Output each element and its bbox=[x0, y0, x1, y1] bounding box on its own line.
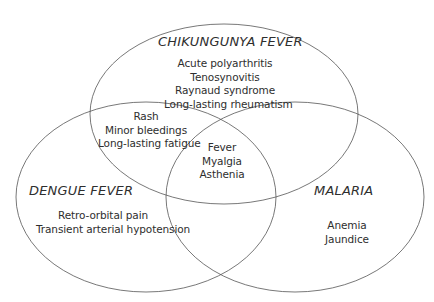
malaria-items: Anemia Jaundice bbox=[322, 219, 372, 246]
all-three-items: Fever Myalgia Asthenia bbox=[196, 141, 248, 182]
overlap-item: Long-lasting fatigue bbox=[98, 137, 194, 151]
chikungunya-dengue-items: Rash Minor bleedings Long-lasting fatigu… bbox=[98, 110, 194, 151]
overlap-item: Asthenia bbox=[196, 168, 248, 182]
overlap-item: Rash bbox=[98, 110, 194, 124]
chikungunya-title: CHIKUNGUNYA FEVER bbox=[158, 34, 303, 49]
chikungunya-item: Long-lasting rheumatism bbox=[164, 98, 286, 112]
malaria-circle bbox=[166, 102, 424, 292]
malaria-item: Jaundice bbox=[322, 233, 372, 247]
chikungunya-item: Acute polyarthritis bbox=[164, 57, 286, 71]
dengue-items: Retro-orbital pain Transient arterial hy… bbox=[36, 209, 170, 236]
dengue-title: DENGUE FEVER bbox=[29, 183, 133, 198]
chikungunya-items: Acute polyarthritis Tenosynovitis Raynau… bbox=[164, 57, 286, 111]
malaria-title: MALARIA bbox=[314, 183, 373, 198]
overlap-item: Minor bleedings bbox=[98, 124, 194, 138]
chikungunya-item: Tenosynovitis bbox=[164, 71, 286, 85]
dengue-item: Transient arterial hypotension bbox=[36, 223, 170, 237]
malaria-item: Anemia bbox=[322, 219, 372, 233]
overlap-item: Myalgia bbox=[196, 155, 248, 169]
dengue-item: Retro-orbital pain bbox=[36, 209, 170, 223]
chikungunya-item: Raynaud syndrome bbox=[164, 84, 286, 98]
overlap-item: Fever bbox=[196, 141, 248, 155]
